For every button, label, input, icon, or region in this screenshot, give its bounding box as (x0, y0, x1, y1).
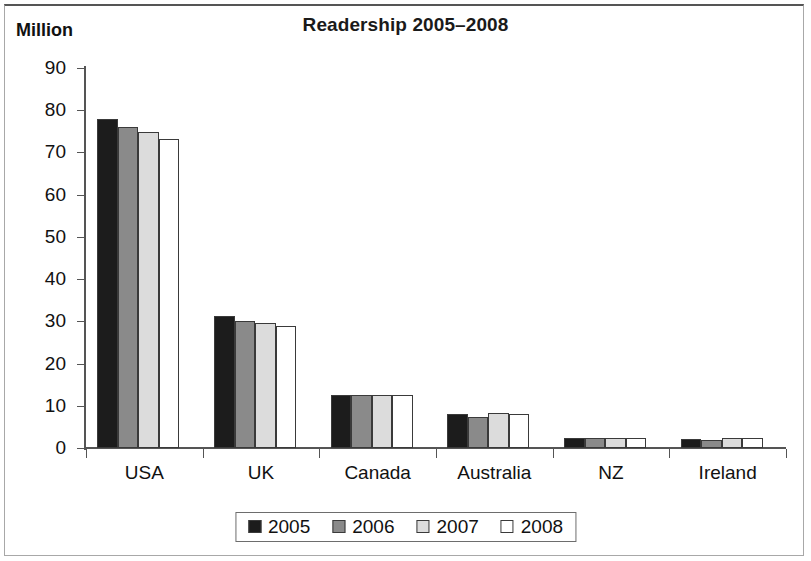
bar-uk-2008 (276, 326, 297, 448)
legend-item-2008: 2008 (501, 517, 563, 536)
chart-figure: Million Readership 2005–2008 01020304050… (0, 0, 811, 561)
bar-usa-2006 (118, 127, 139, 448)
bar-usa-2007 (138, 132, 159, 448)
bar-nz-2005 (564, 438, 585, 448)
y-axis-tick-label: 90 (6, 57, 66, 79)
y-axis-tick-label: 50 (6, 226, 66, 248)
legend-swatch-2005 (248, 520, 261, 533)
bar-group (681, 68, 763, 448)
y-axis-tick (77, 237, 85, 238)
bar-canada-2008 (392, 395, 413, 448)
y-axis-tick (77, 321, 85, 322)
bar-group (447, 68, 529, 448)
bar-nz-2008 (626, 438, 647, 448)
y-axis-tick (77, 448, 85, 449)
x-axis-category-label: UK (248, 462, 274, 484)
x-axis-category-label: Canada (344, 462, 411, 484)
y-axis-tick (77, 195, 85, 196)
bar-nz-2007 (605, 438, 626, 448)
bar-group (214, 68, 296, 448)
bar-group (331, 68, 413, 448)
bar-australia-2005 (447, 414, 468, 448)
legend-label-2006: 2006 (352, 517, 394, 536)
bar-ireland-2008 (742, 438, 763, 448)
y-axis-tick-label: 10 (6, 395, 66, 417)
x-axis-tick (553, 449, 554, 458)
x-axis-category-label: USA (125, 462, 164, 484)
bar-nz-2006 (585, 438, 606, 448)
chart-title: Readership 2005–2008 (0, 14, 811, 36)
bar-australia-2007 (488, 413, 509, 448)
y-axis-line (84, 66, 86, 450)
y-axis-tick-label: 40 (6, 268, 66, 290)
y-axis-tick (77, 110, 85, 111)
bar-australia-2008 (509, 414, 530, 448)
x-axis-tick (203, 449, 204, 458)
legend-swatch-2006 (332, 520, 345, 533)
legend-item-2007: 2007 (417, 517, 479, 536)
bar-uk-2007 (255, 323, 276, 448)
chart-legend: 2005200620072008 (235, 512, 576, 542)
bar-ireland-2005 (681, 439, 702, 448)
legend-swatch-2008 (501, 520, 514, 533)
x-axis-tick (436, 449, 437, 458)
y-axis-tick (77, 364, 85, 365)
bar-canada-2007 (372, 395, 393, 448)
y-axis-tick (77, 68, 85, 69)
y-axis-tick (77, 279, 85, 280)
x-axis-category-label: Australia (457, 462, 531, 484)
y-axis-tick-label: 30 (6, 310, 66, 332)
legend-label-2007: 2007 (437, 517, 479, 536)
bar-uk-2006 (235, 321, 256, 449)
y-axis-tick (77, 406, 85, 407)
x-axis-tick (319, 449, 320, 458)
bar-group (564, 68, 646, 448)
bar-australia-2006 (468, 417, 489, 448)
y-axis-tick-label: 20 (6, 353, 66, 375)
y-axis-tick-label: 70 (6, 141, 66, 163)
legend-label-2005: 2005 (268, 517, 310, 536)
x-axis-category-label: NZ (598, 462, 623, 484)
x-axis-category-label: Ireland (699, 462, 757, 484)
bar-canada-2006 (351, 395, 372, 448)
y-axis-tick-label: 80 (6, 99, 66, 121)
bar-ireland-2007 (722, 438, 743, 448)
legend-label-2008: 2008 (521, 517, 563, 536)
bar-usa-2008 (159, 139, 180, 448)
bar-uk-2005 (214, 316, 235, 448)
x-axis-tick (786, 449, 787, 458)
x-axis-tick (669, 449, 670, 458)
y-axis-tick-label: 0 (6, 437, 66, 459)
y-axis-tick (77, 152, 85, 153)
bar-canada-2005 (331, 395, 352, 448)
bar-ireland-2006 (701, 440, 722, 448)
legend-item-2006: 2006 (332, 517, 394, 536)
x-axis-tick (86, 449, 87, 458)
legend-swatch-2007 (417, 520, 430, 533)
bar-usa-2005 (97, 119, 118, 448)
legend-item-2005: 2005 (248, 517, 310, 536)
bar-group (97, 68, 179, 448)
y-axis-tick-label: 60 (6, 184, 66, 206)
